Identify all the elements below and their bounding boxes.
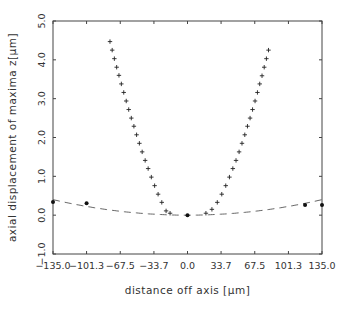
y-tick-label: 5.0 [36, 13, 47, 28]
y-tick-label: 1.0 [36, 169, 47, 184]
x-axis-ticks: −135.0−101.3−67.5−33.70.033.767.5101.313… [35, 21, 335, 271]
filled-dot-markers [51, 200, 324, 217]
x-tick-label: −101.3 [69, 260, 104, 271]
plot-frame [53, 21, 322, 254]
y-tick-label: 0.0 [36, 208, 47, 223]
x-tick-label: 33.7 [210, 260, 231, 271]
dashed-fit-curve [53, 200, 322, 216]
x-tick-label: 0.0 [180, 260, 195, 271]
plus-markers-left-branch [108, 39, 172, 215]
y-tick-label: 2.0 [36, 130, 47, 145]
x-tick-label: 101.3 [275, 260, 302, 271]
x-tick-label: 67.5 [244, 260, 265, 271]
x-axis-title: distance off axis [μm] [125, 284, 250, 296]
y-tick-label: −1.0 [36, 242, 47, 265]
y-tick-label: 3.0 [36, 91, 47, 106]
x-tick-label: −67.5 [106, 260, 135, 271]
y-axis-ticks: −1.00.01.02.03.04.05.0 [36, 13, 322, 265]
y-tick-label: 4.0 [36, 52, 47, 67]
y-axis-title: axial displacement of maxima z[μm] [6, 33, 18, 242]
chart: −135.0−101.3−67.5−33.70.033.767.5101.313… [0, 0, 345, 309]
plus-markers-right-branch [204, 48, 271, 216]
x-tick-label: 135.0 [308, 260, 335, 271]
x-tick-label: −33.7 [139, 260, 168, 271]
